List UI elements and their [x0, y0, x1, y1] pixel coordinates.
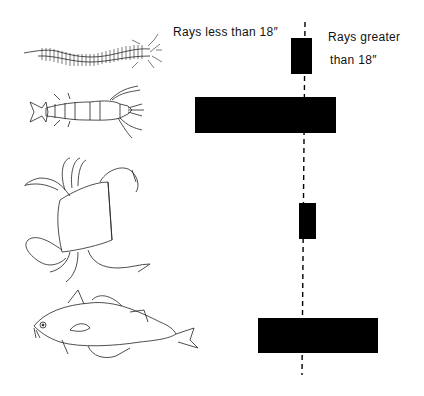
right-legend-label-line1: Rays greater [328, 30, 400, 44]
bar-crab [299, 203, 316, 239]
bar-worm [291, 38, 312, 74]
bar-shrimp [195, 97, 336, 133]
left-legend-label: Rays less than 18″ [173, 25, 278, 39]
bar-fish [258, 318, 378, 353]
fish-icon [34, 290, 198, 358]
crab-icon [25, 158, 150, 282]
worm-icon [24, 34, 162, 68]
right-legend-label-line2: than 18″ [330, 53, 377, 67]
shrimp-icon [30, 86, 144, 138]
